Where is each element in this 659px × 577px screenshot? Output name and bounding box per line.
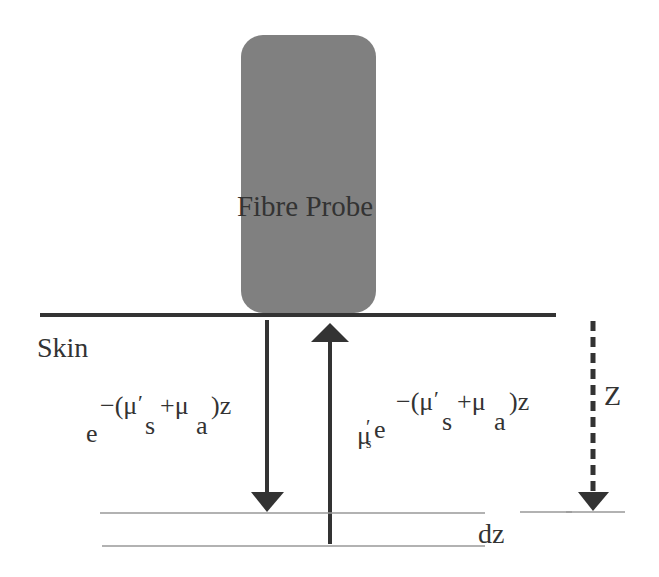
depth-label: Z <box>604 380 621 411</box>
returning-light-arrow <box>311 323 349 544</box>
formula-coef-prime: ′ <box>366 416 370 438</box>
formula-sub-s: s <box>145 411 155 440</box>
formula-prime: ′ <box>138 390 143 415</box>
formula-plus-mu: +μ <box>457 387 486 416</box>
formula-sub-a: a <box>196 411 208 440</box>
depth-arrow <box>578 321 609 511</box>
formula-sub-s: s <box>442 407 452 436</box>
formula-sub-a: a <box>494 407 506 436</box>
formula-exp-prefix: −(μ <box>100 391 137 420</box>
probe-label: Fibre Probe <box>237 190 373 222</box>
returning-signal-formula: μ ′ s e −(μ ′ s +μ a )z <box>357 386 529 451</box>
formula-coef-sub: s <box>366 436 371 451</box>
formula-exp-suffix: )z <box>211 391 231 420</box>
formula-base: e <box>374 415 386 444</box>
formula-exp-prefix: −(μ <box>396 387 433 416</box>
incident-attenuation-formula: e −(μ ′ s +μ a )z <box>86 390 231 448</box>
formula-base: e <box>86 419 98 448</box>
fibre-probe: Fibre Probe <box>237 35 376 313</box>
incident-light-arrow <box>251 320 284 512</box>
slice-label: dz <box>478 518 504 549</box>
formula-exp-suffix: )z <box>509 387 529 416</box>
formula-prime: ′ <box>434 386 439 411</box>
skin-label: Skin <box>37 332 88 363</box>
diagram-canvas: Fibre Probe Skin e −(μ ′ s +μ a )z μ ′ <box>0 0 659 577</box>
formula-plus-mu: +μ <box>160 391 189 420</box>
